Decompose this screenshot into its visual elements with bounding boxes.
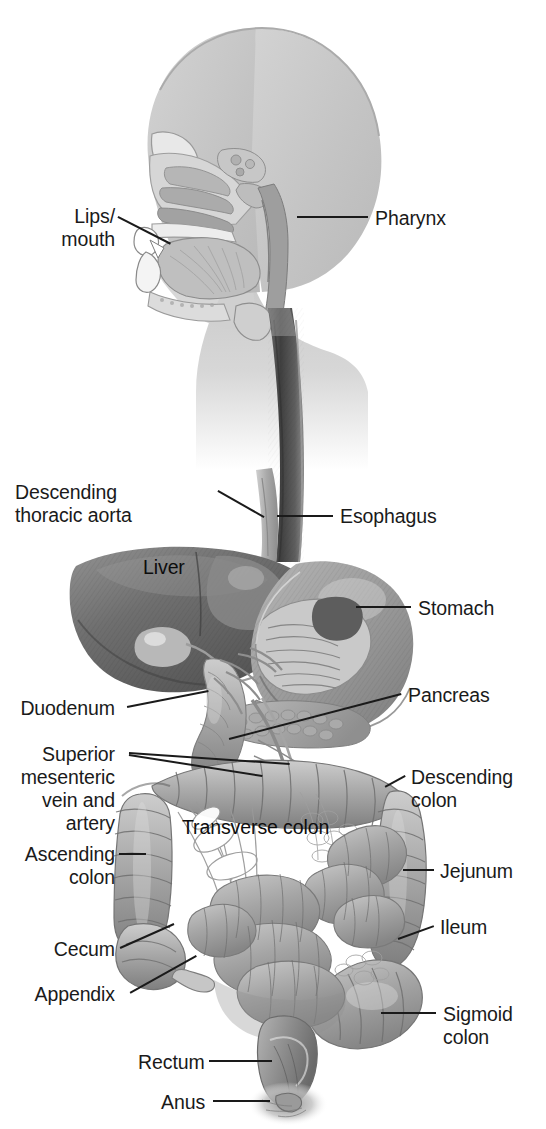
label-pharynx: Pharynx <box>375 207 446 230</box>
label-duodenum: Duodenum <box>17 697 115 720</box>
label-jejunum: Jejunum <box>440 860 513 883</box>
label-sigmoid-colon: Sigmoid colon <box>443 1003 513 1049</box>
label-stomach: Stomach <box>418 597 494 620</box>
label-esophagus: Esophagus <box>340 505 437 528</box>
label-pancreas: Pancreas <box>408 684 490 707</box>
label-ascending-colon: Ascending colon <box>13 843 115 889</box>
cardia <box>312 597 363 641</box>
label-cecum: Cecum <box>20 938 115 961</box>
label-descending-colon: Descending colon <box>411 766 513 812</box>
descending-thoracic-aorta <box>256 468 278 566</box>
appendix <box>172 969 215 992</box>
leader-pharynx <box>297 216 368 218</box>
leader-stomach <box>356 606 411 608</box>
head-and-neck-group <box>134 28 381 470</box>
digestive-system-figure: Lips/ mouthPharynxDescending thoracic ao… <box>0 0 546 1129</box>
leader-rectum <box>209 1060 272 1062</box>
label-superior-mesenteric: Superior mesenteric vein and artery <box>13 743 115 835</box>
label-rectum: Rectum <box>138 1051 202 1074</box>
leader-jejunum <box>403 869 434 871</box>
leader-ascending-colon <box>119 853 146 855</box>
label-anus: Anus <box>161 1091 202 1114</box>
label-appendix: Appendix <box>20 983 115 1006</box>
leader-sigmoid-colon <box>381 1012 436 1014</box>
label-ileum: Ileum <box>440 916 487 939</box>
label-lips-mouth: Lips/ mouth <box>18 205 115 251</box>
leader-esophagus <box>277 515 333 517</box>
leader-anus <box>213 1100 270 1102</box>
label-liver: Liver <box>143 556 185 579</box>
label-descending-thoracic-aorta: Descending thoracic aorta <box>15 481 115 527</box>
label-transverse-colon: Transverse colon <box>182 816 329 839</box>
